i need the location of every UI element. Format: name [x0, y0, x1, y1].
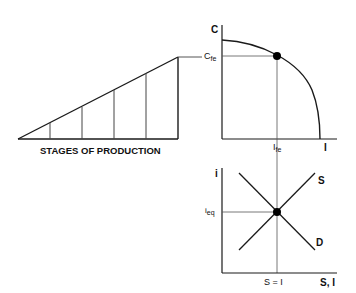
s-equals-i-label: S = I — [264, 277, 283, 287]
supply-label: S — [318, 175, 325, 186]
lf-x-axis-label: S, I — [320, 277, 335, 288]
i-fe-label: Ife — [273, 142, 281, 153]
c-fe-label: Cfe — [204, 51, 216, 62]
demand-label: D — [316, 237, 323, 248]
ppf-y-axis-label: C — [211, 24, 218, 35]
ppf-point — [273, 52, 281, 60]
ppf-x-axis-label: I — [324, 142, 327, 153]
stages-triangle — [18, 57, 178, 139]
lf-y-axis-label: i — [215, 168, 218, 179]
i-eq-label: ieq — [205, 206, 215, 216]
equilibrium-point — [273, 208, 281, 216]
stages-label: STAGES OF PRODUCTION — [40, 145, 161, 156]
